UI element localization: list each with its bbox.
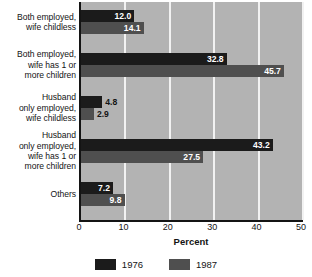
bar-value-label: 43.2 xyxy=(253,139,270,151)
category-label-line: more children xyxy=(0,161,76,171)
category-label-line: only employed, xyxy=(0,103,76,113)
bar-1987-3: 27.5 xyxy=(81,151,203,163)
category-label-line: Both employed, xyxy=(0,12,76,22)
gridline-40 xyxy=(258,2,260,220)
category-label-line: wife childless xyxy=(0,113,76,123)
gridline-20 xyxy=(169,2,171,220)
legend-label: 1976 xyxy=(122,259,143,270)
x-tick-label-20: 20 xyxy=(163,222,173,232)
category-label-line: Both employed, xyxy=(0,49,76,59)
bar-1987-2: 2.9 xyxy=(81,108,94,120)
legend-item-1987[interactable]: 1987 xyxy=(169,259,217,270)
bar-1976-3: 43.2 xyxy=(81,139,273,151)
plot-area: 12.032.84.843.27.214.145.72.927.59.8 xyxy=(79,2,303,222)
bar-value-label: 32.8 xyxy=(207,53,224,65)
bar-value-label: 27.5 xyxy=(183,151,200,163)
legend-label: 1987 xyxy=(196,259,217,270)
category-label-1: Both employed,wife has 1 ormore children xyxy=(0,49,76,80)
bar-value-label: 4.8 xyxy=(105,96,117,108)
bar-1987-1: 45.7 xyxy=(81,65,284,77)
bar-1976-1: 32.8 xyxy=(81,53,227,65)
bar-1987-4: 9.8 xyxy=(81,194,125,206)
bar-1987-0: 14.1 xyxy=(81,22,144,34)
category-label-line: wife has 1 or xyxy=(0,151,76,161)
category-label-line: only employed, xyxy=(0,141,76,151)
bar-value-label: 9.8 xyxy=(110,194,122,206)
bar-value-label: 7.2 xyxy=(98,182,110,194)
category-label-4: Others xyxy=(0,189,76,199)
category-label-line: Others xyxy=(0,189,76,199)
category-label-line: wife has 1 or xyxy=(0,60,76,70)
legend-swatch-icon xyxy=(169,259,190,270)
category-label-line: Husband xyxy=(0,92,76,102)
legend-swatch-icon xyxy=(95,259,116,270)
bar-value-label: 45.7 xyxy=(264,65,281,77)
category-label-line: Husband xyxy=(0,130,76,140)
x-axis-tick-labels: 01020304050 xyxy=(79,222,303,236)
x-axis-title: Percent xyxy=(79,236,303,247)
category-label-3: Husbandonly employed,wife has 1 ormore c… xyxy=(0,130,76,172)
bar-1976-4: 7.2 xyxy=(81,182,113,194)
category-label-0: Both employed,wife childless xyxy=(0,12,76,33)
x-tick-label-30: 30 xyxy=(207,222,217,232)
category-label-2: Husbandonly employed,wife childless xyxy=(0,92,76,123)
gridline-30 xyxy=(213,2,215,220)
category-label-line: wife childless xyxy=(0,22,76,32)
category-axis-labels: Both employed,wife childlessBoth employe… xyxy=(0,2,76,220)
category-label-line: more children xyxy=(0,70,76,80)
gridline-50 xyxy=(302,2,304,220)
bar-1976-0: 12.0 xyxy=(81,10,134,22)
x-tick-label-40: 40 xyxy=(252,222,262,232)
bar-value-label: 14.1 xyxy=(124,22,141,34)
bar-value-label: 12.0 xyxy=(115,10,132,22)
x-tick-label-50: 50 xyxy=(296,222,306,232)
x-tick-label-10: 10 xyxy=(118,222,128,232)
chart-legend: 19761987 xyxy=(0,256,312,272)
gridline-10 xyxy=(124,2,126,220)
bar-value-label: 2.9 xyxy=(97,108,109,120)
bar-1976-2: 4.8 xyxy=(81,96,102,108)
bar-chart: Both employed,wife childlessBoth employe… xyxy=(0,0,312,277)
x-tick-label-0: 0 xyxy=(76,222,81,232)
legend-item-1976[interactable]: 1976 xyxy=(95,259,143,270)
